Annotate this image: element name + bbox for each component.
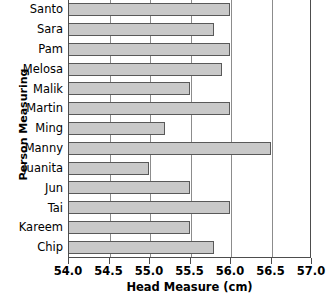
y-axis-tick-label: Santo	[6, 0, 66, 20]
y-axis-tick-label: Melosa	[6, 60, 66, 80]
bar	[68, 102, 230, 115]
y-axis-tick-label: Tai	[6, 198, 66, 218]
x-axis-tick-label: 56.5	[256, 264, 284, 278]
y-axis-tick-label: Sara	[6, 20, 66, 40]
y-axis-tick-label: Pam	[6, 40, 66, 60]
bar	[68, 221, 190, 234]
bar	[68, 3, 230, 16]
bar-row	[69, 119, 310, 139]
bar	[68, 162, 149, 175]
x-axis-title: Head Measure (cm)	[68, 280, 311, 294]
bar-row	[69, 158, 310, 178]
bar	[68, 63, 222, 76]
bar	[68, 23, 214, 36]
plot-area	[68, 0, 311, 258]
bar-row	[69, 198, 310, 218]
bar-row	[69, 40, 310, 60]
y-axis-tick-label: Ming	[6, 119, 66, 139]
bar-chart: Person Measuring SantoSaraPamMelosaMalik…	[0, 0, 330, 296]
y-axis-tick-labels: SantoSaraPamMelosaMalikMartinMingMannyJu…	[6, 0, 66, 258]
bar-row	[69, 99, 310, 119]
bar-row	[69, 237, 310, 257]
y-axis-tick-label: Jun	[6, 179, 66, 199]
x-axis-tick-label: 56.0	[216, 264, 244, 278]
bar-row	[69, 178, 310, 198]
x-axis-tick-label: 55.0	[135, 264, 163, 278]
x-axis-tick-label: 55.5	[175, 264, 203, 278]
y-axis-tick-label: Juanita	[6, 159, 66, 179]
bar	[68, 201, 230, 214]
bar-row	[69, 0, 310, 20]
y-axis-tick-label: Martin	[6, 99, 66, 119]
bar-row	[69, 20, 310, 40]
bar-row	[69, 138, 310, 158]
bar	[68, 142, 271, 155]
y-axis-tick-label: Kareem	[6, 218, 66, 238]
bar-row	[69, 217, 310, 237]
bar	[68, 43, 230, 56]
bar	[68, 241, 214, 254]
bar	[68, 122, 165, 135]
bar-row	[69, 79, 310, 99]
x-axis-tick-labels: 54.054.555.055.556.056.557.0	[0, 264, 330, 280]
bar-row	[69, 59, 310, 79]
bar	[68, 82, 190, 95]
x-axis-tick-label: 54.0	[54, 264, 82, 278]
y-axis-tick-label: Malik	[6, 79, 66, 99]
y-axis-tick-label: Manny	[6, 139, 66, 159]
bar	[68, 181, 190, 194]
x-axis-tick-label: 57.0	[297, 264, 325, 278]
bar-rows	[69, 0, 310, 257]
x-axis-tick-label: 54.5	[94, 264, 122, 278]
y-axis-tick-label: Chip	[6, 238, 66, 258]
